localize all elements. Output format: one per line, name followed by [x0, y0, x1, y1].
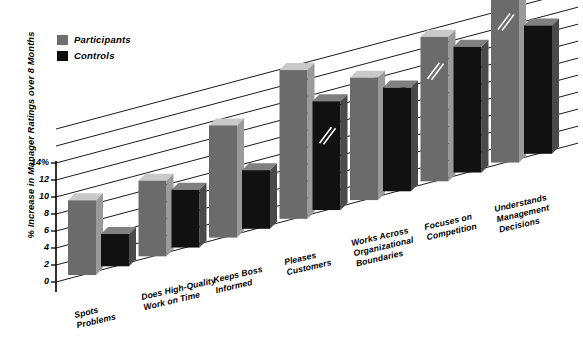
y-tick-label: 0: [44, 276, 49, 286]
bar-participants: [491, 0, 526, 163]
bar-participants: [280, 63, 315, 219]
plot-area: 02468101214%SpotsProblemsDoes High-Quali…: [0, 0, 583, 364]
y-tick-label: 4: [43, 242, 49, 252]
bar-controls: [383, 81, 418, 192]
bar-controls: [524, 18, 559, 153]
bar-participants: [421, 30, 456, 182]
bar-controls: [242, 163, 277, 229]
plot-svg: 02468101214%SpotsProblemsDoes High-Quali…: [0, 0, 583, 364]
bar-participants: [209, 118, 244, 237]
bar-controls: [454, 40, 489, 173]
y-tick-label: 14%: [31, 157, 49, 167]
x-category-label: Does High-QualityWork on Time: [140, 275, 220, 312]
x-category-label: UnderstandsManagementDecisions: [493, 192, 553, 234]
bar-controls: [313, 94, 348, 210]
x-category-label: Works AcrossOrganizationalBoundaries: [350, 224, 417, 268]
y-tick-label: 12: [39, 174, 49, 184]
y-tick-label: 10: [39, 191, 49, 201]
bar-chart: Participants Controls % Increase in Mana…: [0, 0, 583, 364]
bar-participants: [350, 71, 385, 200]
y-tick-label: 8: [44, 208, 49, 218]
x-category-label: Focuses onCompetition: [423, 211, 478, 242]
bar-controls: [172, 183, 207, 248]
y-tick-label: 6: [44, 225, 50, 235]
x-category-label: SpotsProblems: [73, 301, 117, 330]
x-category-label: PleasesCustomers: [283, 247, 332, 277]
bar-participants: [68, 193, 103, 275]
y-tick-label: 2: [43, 259, 49, 269]
bar-participants: [139, 174, 174, 257]
x-category-label: Keeps BossInformed: [212, 264, 266, 295]
bar-controls: [101, 227, 136, 266]
